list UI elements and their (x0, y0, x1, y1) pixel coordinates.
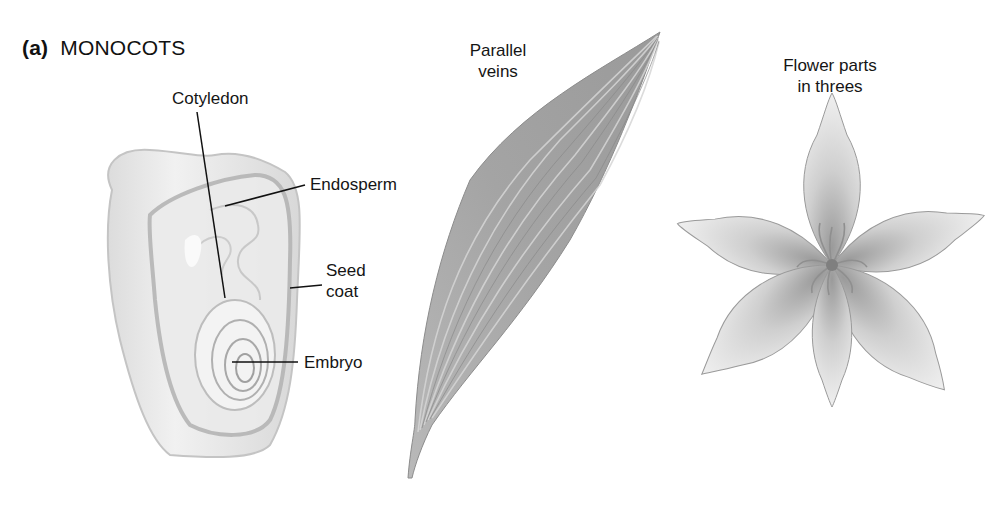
seed-illustration (108, 150, 300, 457)
flower-parts-label-line1: Flower parts (760, 55, 900, 76)
endosperm-label: Endosperm (310, 174, 397, 195)
parallel-veins-label-line1: Parallel (448, 40, 548, 61)
petal-top (804, 93, 861, 265)
leaf-illustration (408, 32, 660, 478)
seed-coat-label-line1: Seed (326, 260, 366, 281)
seed-coat-label: Seed coat (326, 260, 366, 302)
flower-parts-label-line2: in threes (760, 76, 900, 97)
parallel-veins-label: Parallel veins (448, 40, 548, 82)
flower-illustration (671, 93, 993, 411)
flower-parts-label: Flower parts in threes (760, 55, 900, 97)
cotyledon-label: Cotyledon (172, 88, 249, 109)
seed-coat-label-line2: coat (326, 281, 366, 302)
parallel-veins-label-line2: veins (448, 61, 548, 82)
embryo-label: Embryo (304, 352, 363, 373)
